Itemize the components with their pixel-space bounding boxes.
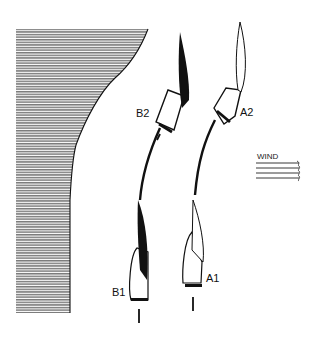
- label-a2: A2: [240, 106, 253, 118]
- track-a: [195, 120, 215, 195]
- label-wind: WIND: [257, 152, 279, 161]
- boat-b1: [130, 200, 148, 323]
- shoreline: [16, 29, 148, 313]
- label-b2: B2: [136, 107, 149, 119]
- boat-b2: [156, 32, 189, 140]
- wind-indicator: WIND: [256, 152, 300, 181]
- sailing-diagram: B2 A2 B1 A1 WIND: [0, 0, 318, 338]
- label-b1: B1: [112, 286, 125, 298]
- label-a1: A1: [206, 272, 219, 284]
- boat-a1: [183, 200, 204, 311]
